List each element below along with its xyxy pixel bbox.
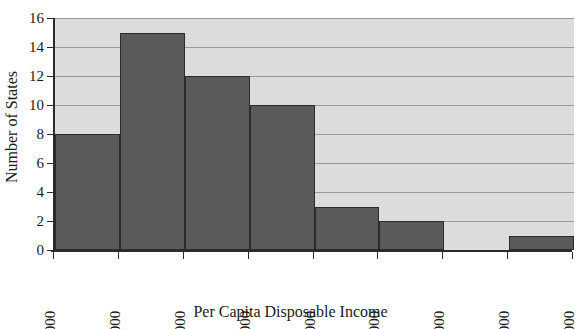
histogram-bar bbox=[379, 221, 444, 250]
y-axis-tick-label: 10 bbox=[0, 98, 44, 113]
y-axis-tick-label: 4 bbox=[0, 185, 44, 200]
y-axis-tick-mark bbox=[47, 18, 53, 19]
x-axis-tick-mark bbox=[572, 252, 573, 259]
y-axis-tick-label: 0 bbox=[0, 243, 44, 258]
histogram-bar bbox=[250, 105, 315, 250]
y-axis-tick-label: 12 bbox=[0, 69, 44, 84]
x-axis-title: Per Capita Disposable Income bbox=[0, 303, 581, 321]
histogram-bar bbox=[185, 76, 250, 250]
gridline bbox=[55, 18, 574, 19]
y-axis-tick-label: 2 bbox=[0, 214, 44, 229]
x-axis-tick-mark bbox=[183, 252, 184, 259]
y-axis-tick-mark bbox=[47, 250, 53, 251]
y-axis-tick-mark bbox=[47, 134, 53, 135]
y-axis-tick-mark bbox=[47, 105, 53, 106]
histogram-bar bbox=[120, 33, 185, 251]
x-axis-tick-mark bbox=[507, 252, 508, 259]
x-axis-tick-mark bbox=[442, 252, 443, 259]
y-axis-tick-mark bbox=[47, 47, 53, 48]
histogram-bar bbox=[315, 207, 380, 251]
x-axis-tick-mark bbox=[118, 252, 119, 259]
histogram-bar bbox=[509, 236, 574, 251]
y-axis-tick-label: 16 bbox=[0, 11, 44, 26]
y-axis-tick-labels: 0246810121416 bbox=[0, 0, 44, 329]
y-axis-tick-mark bbox=[47, 192, 53, 193]
chart-title bbox=[0, 0, 581, 4]
y-axis-tick-mark bbox=[47, 221, 53, 222]
y-axis-tick-label: 6 bbox=[0, 156, 44, 171]
histogram-bar bbox=[55, 134, 120, 250]
histogram-figure: Number of States 0246810121416 24,00027,… bbox=[0, 0, 581, 329]
y-axis-tick-mark bbox=[47, 76, 53, 77]
plot-inner bbox=[55, 18, 574, 250]
x-axis-tick-mark bbox=[313, 252, 314, 259]
x-axis-tick-mark bbox=[377, 252, 378, 259]
x-axis-line bbox=[51, 250, 572, 252]
y-axis-tick-mark bbox=[47, 163, 53, 164]
y-axis-tick-label: 14 bbox=[0, 40, 44, 55]
plot-area bbox=[53, 18, 574, 250]
y-axis-tick-label: 8 bbox=[0, 127, 44, 142]
x-axis-tick-mark bbox=[248, 252, 249, 259]
x-axis-tick-mark bbox=[53, 252, 54, 259]
